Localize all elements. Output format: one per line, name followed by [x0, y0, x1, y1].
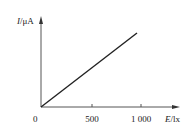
origin-label: 0: [33, 114, 38, 124]
photocurrent-illuminance-chart: I/μA E/lx 0 500 1 000: [0, 0, 196, 130]
data-line: [41, 33, 137, 107]
x-axis-label: E/lx: [164, 114, 181, 124]
y-axis-label: I/μA: [16, 16, 34, 26]
x-axis-arrow-icon: [172, 105, 180, 109]
x-tick-label-1000: 1 000: [131, 114, 152, 124]
x-tick-label-500: 500: [85, 114, 99, 124]
y-axis-arrow-icon: [39, 16, 43, 24]
